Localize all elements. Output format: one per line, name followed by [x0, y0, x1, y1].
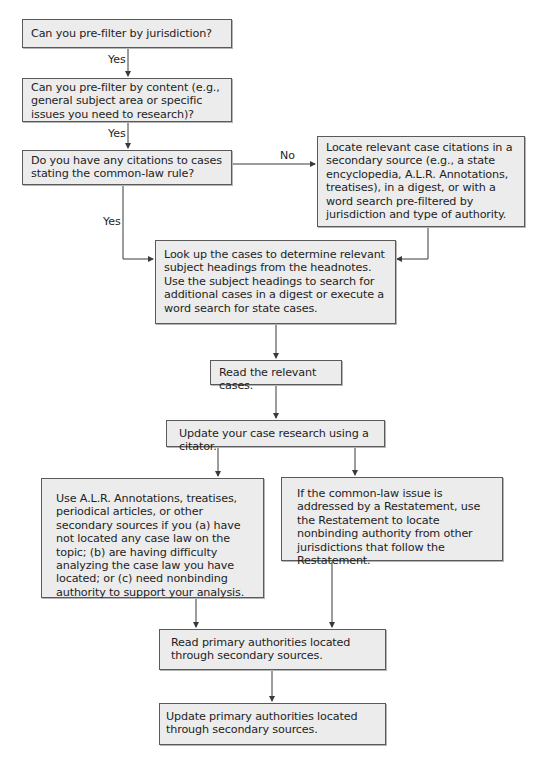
node-have-citations: Do you have any citations to cases stati… [22, 150, 232, 185]
node-read-primary-authorities: Read primary authorities located through… [159, 629, 386, 670]
node-update-citator: Update your case research using a citato… [166, 420, 385, 447]
node-text: Update primary authorities located throu… [166, 710, 379, 737]
node-text: Update your case research using a citato… [179, 427, 378, 454]
node-text: Can you pre-filter by jurisdiction? [31, 27, 223, 40]
node-text: Can you pre-filter by content (e.g., gen… [31, 81, 223, 121]
edge-label-yes: Yes [108, 53, 126, 66]
node-text: Use A.L.R. Annotations, treatises, perio… [56, 492, 253, 599]
node-text: Do you have any citations to cases stati… [31, 154, 223, 181]
node-look-up-cases: Look up the cases to determine relevant … [155, 240, 396, 324]
node-locate-citations: Locate relevant case citations in a seco… [317, 136, 525, 227]
node-text: Read the relevant cases. [219, 366, 333, 393]
edge-label-yes: Yes [103, 215, 121, 228]
node-use-secondary-sources: Use A.L.R. Annotations, treatises, perio… [41, 478, 264, 598]
edge-label-no: No [280, 149, 295, 162]
edge-label-yes: Yes [108, 127, 126, 140]
node-restatement: If the common-law issue is addressed by … [281, 477, 503, 561]
node-text: Look up the cases to determine relevant … [164, 248, 387, 315]
node-prefilter-content: Can you pre-filter by content (e.g., gen… [22, 78, 232, 122]
node-text: If the common-law issue is addressed by … [297, 487, 494, 567]
node-text: Read primary authorities located through… [171, 636, 377, 663]
node-update-primary-authorities: Update primary authorities located throu… [159, 703, 386, 745]
node-prefilter-jurisdiction: Can you pre-filter by jurisdiction? [22, 19, 232, 48]
node-text: Locate relevant case citations in a seco… [326, 141, 516, 221]
node-read-cases: Read the relevant cases. [210, 360, 342, 385]
